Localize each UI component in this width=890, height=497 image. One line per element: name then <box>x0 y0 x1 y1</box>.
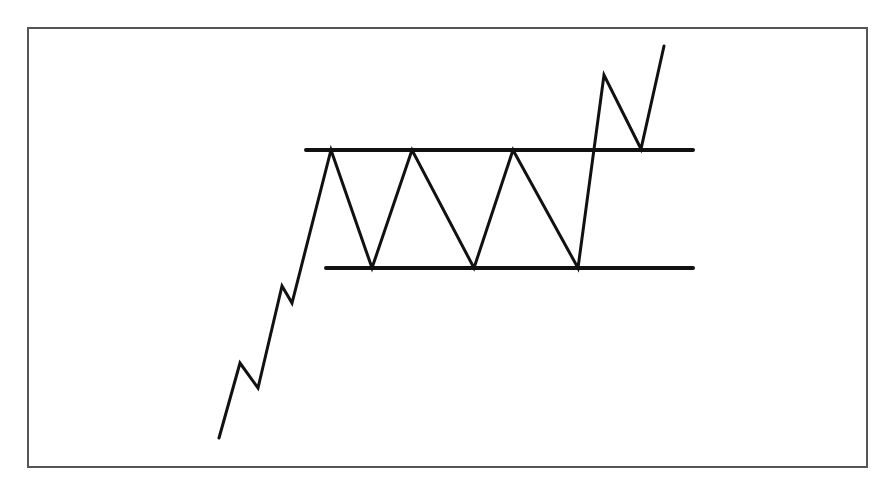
price-path <box>219 46 664 438</box>
price-pattern-diagram <box>0 0 890 497</box>
diagram-frame <box>28 28 867 467</box>
